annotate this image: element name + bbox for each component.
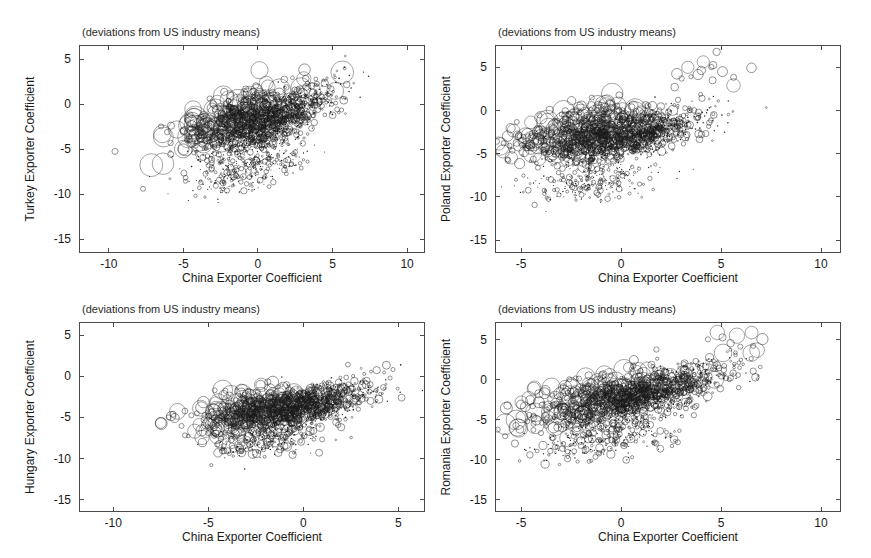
x-tick-label: -5: [516, 516, 527, 530]
x-tick-label: -5: [178, 257, 189, 271]
x-tick-mark: [108, 248, 109, 253]
y-tick-mark: [495, 196, 500, 197]
x-tick-mark: [721, 507, 722, 512]
x-tick-label: 5: [718, 516, 725, 530]
x-tick-mark-top: [621, 45, 622, 50]
x-axis-label-hungary: China Exporter Coefficient: [182, 530, 322, 544]
y-tick-label: 5: [33, 52, 71, 66]
y-tick-mark: [495, 419, 500, 420]
y-tick-label: -5: [33, 142, 71, 156]
y-tick-mark: [79, 376, 84, 377]
x-tick-mark-top: [621, 322, 622, 327]
y-tick-label: -5: [449, 413, 487, 427]
y-tick-label: -15: [33, 232, 71, 246]
panel-title-turkey: (deviations from US industry means): [82, 26, 260, 38]
x-tick-mark-top: [521, 45, 522, 50]
y-tick-mark-right: [420, 149, 425, 150]
x-tick-label: 0: [255, 257, 262, 271]
x-tick-mark: [821, 507, 822, 512]
x-tick-label: 5: [718, 257, 725, 271]
x-tick-mark-top: [721, 45, 722, 50]
x-tick-mark-top: [407, 45, 408, 50]
x-tick-mark: [521, 507, 522, 512]
x-tick-mark: [208, 507, 209, 512]
x-tick-label: 5: [395, 516, 402, 530]
y-tick-label: -10: [449, 453, 487, 467]
y-tick-mark: [495, 110, 500, 111]
x-tick-label: 0: [618, 516, 625, 530]
x-axis-label-turkey: China Exporter Coefficient: [182, 271, 322, 285]
x-tick-mark-top: [398, 322, 399, 327]
x-tick-mark: [407, 248, 408, 253]
y-tick-mark-right: [836, 499, 841, 500]
x-tick-mark-top: [303, 322, 304, 327]
y-tick-mark: [495, 339, 500, 340]
y-tick-mark: [495, 499, 500, 500]
x-tick-mark-top: [108, 45, 109, 50]
y-tick-label: 0: [33, 97, 71, 111]
y-axis-label-romania: Romania Exporter Coefficient: [439, 339, 453, 496]
x-tick-mark: [113, 507, 114, 512]
y-tick-label: -5: [449, 147, 487, 161]
y-tick-label: 5: [33, 328, 71, 342]
y-tick-label: 0: [449, 104, 487, 118]
y-axis-label-poland: Poland Exporter Coefficient: [439, 76, 453, 222]
x-tick-mark: [303, 507, 304, 512]
x-tick-mark-top: [721, 322, 722, 327]
x-tick-mark-top: [821, 322, 822, 327]
x-tick-label: 0: [300, 516, 307, 530]
y-tick-label: -15: [449, 233, 487, 247]
y-tick-mark-right: [836, 379, 841, 380]
y-tick-label: 0: [33, 369, 71, 383]
panel-title-hungary: (deviations from US industry means): [82, 303, 260, 315]
x-tick-label: 10: [814, 257, 827, 271]
y-tick-label: -10: [449, 190, 487, 204]
figure-four-panel-scatter: (deviations from US industry means)50-5-…: [0, 0, 871, 558]
x-tick-label: 5: [329, 257, 336, 271]
scatter-points-romania: [496, 323, 840, 511]
y-tick-mark: [79, 59, 84, 60]
x-tick-mark-top: [183, 45, 184, 50]
x-tick-label: 10: [400, 257, 413, 271]
x-tick-mark: [332, 248, 333, 253]
y-tick-mark: [495, 153, 500, 154]
x-tick-label: -5: [516, 257, 527, 271]
y-tick-label: -5: [33, 410, 71, 424]
x-tick-mark: [257, 248, 258, 253]
y-tick-mark-right: [836, 339, 841, 340]
y-axis-label-turkey: Turkey Exporter Coefficient: [23, 77, 37, 222]
x-tick-mark: [398, 507, 399, 512]
x-tick-mark: [621, 507, 622, 512]
x-tick-mark-top: [113, 322, 114, 327]
y-tick-label: -15: [449, 493, 487, 507]
panel-title-poland: (deviations from US industry means): [498, 26, 676, 38]
scatter-points-poland: [496, 46, 840, 252]
y-tick-label: -10: [33, 452, 71, 466]
y-tick-mark: [495, 67, 500, 68]
y-tick-mark: [79, 194, 84, 195]
x-tick-label: 10: [814, 516, 827, 530]
x-tick-mark-top: [257, 45, 258, 50]
x-tick-label: -5: [203, 516, 214, 530]
x-tick-mark-top: [208, 322, 209, 327]
y-axis-label-hungary: Hungary Exporter Coefficient: [23, 340, 37, 494]
y-tick-mark: [79, 239, 84, 240]
scatter-points-turkey: [80, 46, 424, 252]
x-tick-mark-top: [332, 45, 333, 50]
y-tick-mark: [495, 379, 500, 380]
x-tick-label: 0: [618, 257, 625, 271]
y-tick-mark: [495, 240, 500, 241]
y-tick-mark-right: [420, 335, 425, 336]
x-tick-mark: [183, 248, 184, 253]
y-tick-label: -10: [33, 187, 71, 201]
x-axis-label-poland: China Exporter Coefficient: [598, 271, 738, 285]
y-tick-label: 5: [449, 333, 487, 347]
y-tick-mark-right: [420, 59, 425, 60]
x-tick-label: -10: [105, 516, 122, 530]
y-tick-mark: [79, 499, 84, 500]
y-tick-mark-right: [836, 196, 841, 197]
y-tick-mark: [79, 149, 84, 150]
scatter-points-hungary: [80, 323, 424, 511]
y-tick-mark: [79, 335, 84, 336]
y-tick-mark-right: [420, 376, 425, 377]
